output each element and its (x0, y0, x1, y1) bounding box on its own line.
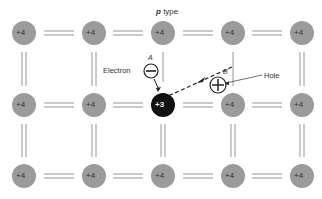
atom-charge: +4 (16, 100, 25, 109)
atom-charge: +4 (86, 100, 95, 109)
title-prefix: p (156, 7, 161, 16)
atom-charge: +4 (86, 28, 95, 37)
point-a-label: A (148, 54, 153, 61)
hole-symbol (210, 77, 226, 93)
atom-charge: +4 (225, 100, 234, 109)
electron-symbol (144, 64, 158, 78)
electron-path (154, 67, 262, 97)
atom-charge: +4 (16, 171, 25, 180)
atom-charge: +4 (16, 28, 25, 37)
atom-charge: +4 (155, 28, 164, 37)
point-b-label: B (223, 68, 228, 75)
atom-charge: +4 (225, 28, 234, 37)
atom-charge: +4 (294, 28, 303, 37)
electron-label: Electron (103, 66, 131, 75)
atom-charge: +4 (294, 171, 303, 180)
atom-charge: +4 (294, 100, 303, 109)
hole-label: Hole (264, 71, 279, 80)
diagram-title: p type (156, 7, 178, 16)
acceptor-charge: +3 (155, 100, 164, 109)
atom-charge: +4 (155, 171, 164, 180)
title-text: type (163, 7, 178, 16)
atom-charge: +4 (86, 171, 95, 180)
atom-charge: +4 (225, 171, 234, 180)
